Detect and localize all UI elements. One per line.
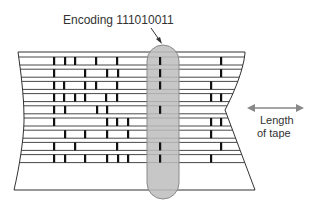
bit-mark bbox=[116, 81, 118, 89]
bit-mark bbox=[53, 155, 55, 163]
bit-mark bbox=[116, 57, 118, 65]
bit-mark bbox=[95, 81, 97, 89]
bit-mark bbox=[210, 130, 212, 138]
bit-mark bbox=[53, 106, 55, 114]
bit-mark bbox=[210, 155, 212, 163]
bit-mark bbox=[95, 57, 97, 65]
encoding-column-highlight bbox=[147, 45, 179, 199]
bit-mark bbox=[63, 81, 65, 89]
bit-mark bbox=[106, 130, 108, 138]
bit-mark bbox=[84, 130, 86, 138]
bit-mark bbox=[106, 118, 108, 126]
bit-mark bbox=[106, 155, 108, 163]
length-label-line1: Length bbox=[260, 114, 294, 126]
encoding-callout-label: Encoding 111010011 bbox=[63, 13, 174, 27]
bit-mark bbox=[53, 118, 55, 126]
bit-mark bbox=[159, 81, 161, 89]
bit-mark bbox=[74, 57, 76, 65]
bit-mark bbox=[64, 106, 66, 114]
bit-mark bbox=[64, 57, 66, 65]
bit-mark bbox=[127, 118, 129, 126]
track-lines bbox=[14, 52, 255, 190]
bit-mark bbox=[53, 94, 55, 102]
bit-mark bbox=[74, 94, 76, 102]
bit-mark bbox=[210, 94, 212, 102]
bit-mark bbox=[84, 94, 86, 102]
bit-mark bbox=[64, 155, 66, 163]
bit-mark bbox=[96, 106, 98, 114]
bit-mark bbox=[159, 69, 161, 77]
bit-mark bbox=[116, 118, 118, 126]
bit-mark bbox=[220, 142, 222, 150]
bit-mark bbox=[210, 118, 212, 126]
length-label-line2: of tape bbox=[257, 127, 291, 139]
bit-mark bbox=[159, 142, 161, 150]
bit-mark bbox=[63, 94, 65, 102]
bit-mark bbox=[159, 155, 161, 163]
callout-arrow-icon bbox=[151, 28, 162, 44]
bit-mark bbox=[116, 94, 118, 102]
track-marks bbox=[53, 57, 222, 163]
bit-mark bbox=[74, 142, 76, 150]
bit-mark bbox=[220, 118, 222, 126]
bit-mark bbox=[84, 69, 86, 77]
tape-outline bbox=[14, 52, 255, 190]
bit-mark bbox=[117, 155, 119, 163]
bit-mark bbox=[84, 155, 86, 163]
bit-mark bbox=[64, 130, 66, 138]
bit-mark bbox=[106, 106, 108, 114]
bit-mark bbox=[210, 81, 212, 89]
double-arrow-icon bbox=[247, 104, 304, 112]
bit-mark bbox=[220, 94, 222, 102]
magnetic-tape-diagram: Encoding 111010011 Length of tape bbox=[0, 0, 315, 214]
bit-mark bbox=[127, 130, 129, 138]
bit-mark bbox=[159, 106, 161, 114]
bit-mark bbox=[53, 57, 55, 65]
bit-mark bbox=[105, 94, 107, 102]
bit-mark bbox=[117, 69, 119, 77]
bit-mark bbox=[159, 57, 161, 65]
bit-mark bbox=[53, 69, 55, 77]
bit-mark bbox=[127, 155, 129, 163]
bit-mark bbox=[84, 81, 86, 89]
bit-mark bbox=[220, 57, 222, 65]
bit-mark bbox=[220, 69, 222, 77]
bit-mark bbox=[53, 81, 55, 89]
bit-mark bbox=[53, 142, 55, 150]
bit-mark bbox=[116, 142, 118, 150]
bit-mark bbox=[106, 69, 108, 77]
